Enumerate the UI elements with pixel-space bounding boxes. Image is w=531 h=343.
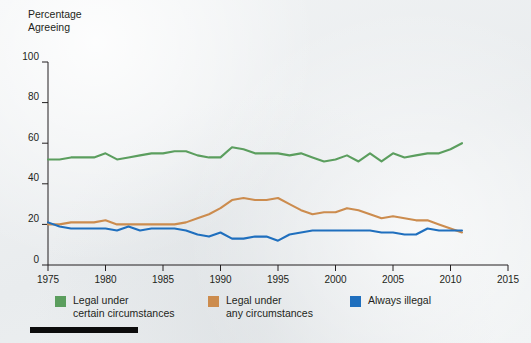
chart-series — [48, 143, 462, 240]
svg-text:80: 80 — [28, 91, 40, 102]
svg-text:60: 60 — [28, 132, 40, 143]
svg-text:1975: 1975 — [37, 274, 60, 285]
legend-item-legal-certain-circumstances[interactable]: Legal under certain circumstances — [55, 294, 175, 319]
footer-rule — [30, 327, 138, 333]
svg-text:20: 20 — [28, 213, 40, 224]
series-line — [48, 198, 462, 233]
legend-swatch-orange — [208, 296, 219, 307]
series-line — [48, 222, 462, 240]
legend-item-legal-any-circumstances[interactable]: Legal under any circumstances — [208, 294, 313, 319]
legend-label: Legal under any circumstances — [226, 294, 313, 319]
svg-text:0: 0 — [33, 254, 39, 265]
svg-text:1985: 1985 — [152, 274, 175, 285]
legend-label: Legal under certain circumstances — [73, 294, 175, 319]
svg-text:2010: 2010 — [439, 274, 462, 285]
legend-item-always-illegal[interactable]: Always illegal — [350, 294, 431, 307]
svg-text:100: 100 — [22, 51, 39, 62]
legend-swatch-green — [55, 296, 66, 307]
svg-text:40: 40 — [28, 172, 40, 183]
series-line — [48, 143, 462, 161]
chart-axes: 0204060801001975198019851990199520002005… — [22, 51, 519, 286]
svg-text:2015: 2015 — [497, 274, 520, 285]
chart-plot-area: 0204060801001975198019851990199520002005… — [0, 0, 531, 343]
legend-label: Always illegal — [368, 294, 431, 307]
svg-text:1980: 1980 — [94, 274, 117, 285]
line-chart: Percentage Agreeing 02040608010019751980… — [0, 0, 531, 343]
chart-legend: Legal under certain circumstances Legal … — [50, 294, 470, 328]
svg-text:2005: 2005 — [382, 274, 405, 285]
legend-swatch-blue — [350, 296, 361, 307]
svg-text:1995: 1995 — [267, 274, 290, 285]
svg-text:2000: 2000 — [324, 274, 347, 285]
svg-text:1990: 1990 — [209, 274, 232, 285]
